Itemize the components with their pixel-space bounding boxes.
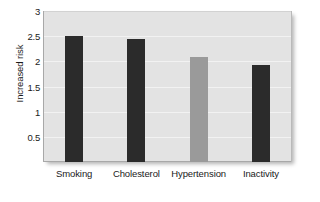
x-axis-tick-labels: SmokingCholesterolHypertensionInactivity (43, 168, 292, 184)
bar-hypertension (190, 57, 208, 162)
y-tick-label: 0.5 (14, 131, 40, 142)
y-tick-label: 2 (14, 56, 40, 67)
y-axis-tick-labels: 32.521.510.5 (14, 11, 40, 162)
bar-inactivity (252, 65, 270, 162)
y-tick-label: 2.5 (14, 31, 40, 42)
bar-chart-figure: Increased risk 32.521.510.5 SmokingChole… (0, 0, 320, 202)
y-tick-label: 1 (14, 106, 40, 117)
plot-area (43, 11, 292, 162)
y-tick-label: 1.5 (14, 81, 40, 92)
bars-layer (43, 11, 291, 162)
y-tick-label: 3 (14, 6, 40, 17)
x-tick-label: Inactivity (216, 168, 306, 179)
bar-smoking (65, 36, 83, 162)
bar-cholesterol (127, 39, 145, 162)
